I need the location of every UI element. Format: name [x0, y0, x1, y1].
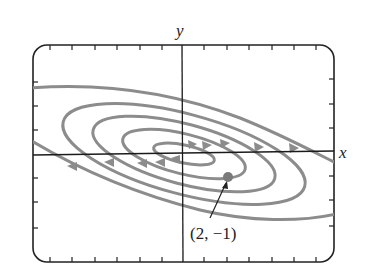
point-marker: [223, 172, 233, 182]
y-axis: [182, 45, 183, 262]
pointer-arrowhead-icon: [222, 181, 228, 189]
x-axis-label: x: [338, 143, 347, 162]
arrow-icon: [254, 142, 264, 152]
phase-portrait: y x (2, −1): [0, 0, 371, 273]
x-axis: [33, 151, 334, 155]
point-label: (2, −1): [190, 224, 236, 243]
y-axis-label: y: [174, 21, 184, 40]
